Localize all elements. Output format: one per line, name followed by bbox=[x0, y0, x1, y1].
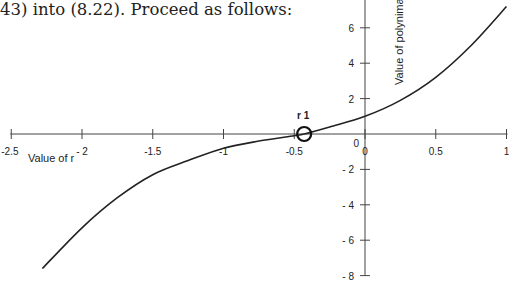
x-tick-label: -0.5 bbox=[286, 146, 304, 157]
x-tick-label: -2.5 bbox=[1, 146, 19, 157]
y-tick-label: 6 bbox=[348, 23, 354, 34]
ticks: -2.5- 2-1.5-1-0.500.516420- 2- 4- 6- 8 bbox=[1, 23, 509, 282]
axes bbox=[10, 0, 507, 276]
x-axis-label: Value of r bbox=[28, 152, 75, 164]
polynomial-chart: -2.5- 2-1.5-1-0.500.516420- 2- 4- 6- 8 r… bbox=[0, 0, 509, 287]
y-tick-label: - 6 bbox=[342, 235, 354, 246]
y-tick-label: - 8 bbox=[342, 271, 354, 282]
y-tick-label: 4 bbox=[348, 58, 354, 69]
x-tick-label: -1.5 bbox=[144, 146, 162, 157]
x-tick-label: 0.5 bbox=[429, 146, 443, 157]
y-tick-label: - 2 bbox=[342, 164, 354, 175]
x-tick-label: - 2 bbox=[76, 146, 88, 157]
x-tick-label: 0 bbox=[362, 146, 368, 157]
polynomial-curve bbox=[42, 7, 506, 269]
y-tick-label: 0 bbox=[353, 138, 359, 149]
x-tick-label: 1 bbox=[504, 146, 509, 157]
y-tick-label: - 4 bbox=[342, 200, 354, 211]
root-r1-label: r 1 bbox=[297, 110, 310, 121]
y-tick-label: 2 bbox=[348, 94, 354, 105]
y-axis-label: Value of polynimal bbox=[393, 0, 405, 85]
